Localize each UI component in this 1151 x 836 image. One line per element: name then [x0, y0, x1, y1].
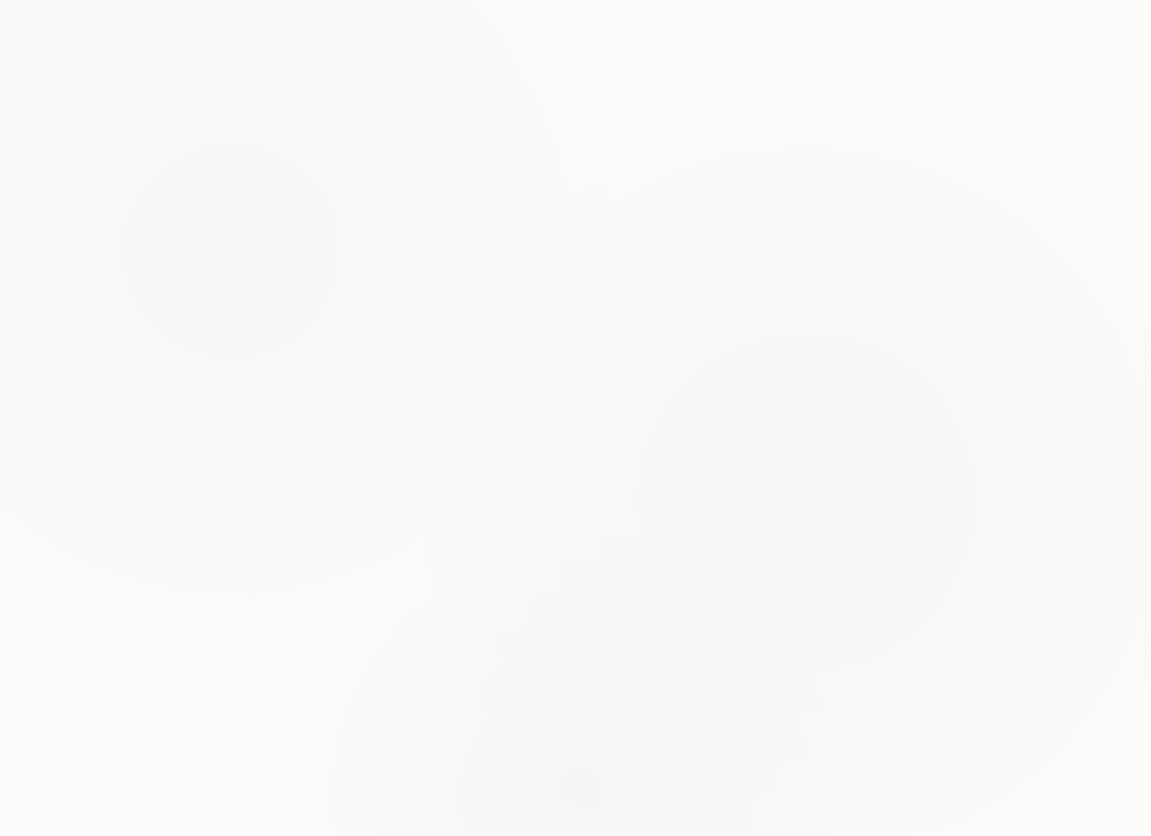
projection-drawing: [0, 0, 1151, 836]
orthographic-projection-diagram: [0, 0, 1151, 836]
